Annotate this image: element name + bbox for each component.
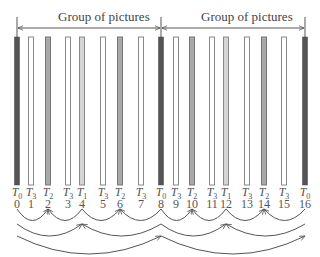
frame-number-label: 7 (138, 197, 144, 212)
frame-number-label: 14 (258, 197, 270, 212)
frame-number-label: 0 (14, 197, 20, 212)
frame-bar-0 (15, 37, 20, 185)
frame-number-label: 10 (186, 197, 198, 212)
frame-bar-9 (174, 37, 179, 185)
frame-bar-5 (101, 37, 106, 185)
frame-bar-1 (29, 37, 34, 185)
frame-number-label: 15 (278, 197, 290, 212)
prediction-arc-0-to-4 (17, 224, 82, 236)
frame-number-label: 1 (28, 197, 34, 212)
prediction-arc-8-to-16 (161, 236, 305, 254)
diagram-canvas (0, 0, 320, 257)
frame-bar-4 (80, 37, 85, 185)
frame-bar-3 (66, 37, 71, 185)
frame-bar-15 (282, 37, 287, 185)
frame-number-label: 12 (220, 197, 232, 212)
frame-number-label: 5 (100, 197, 106, 212)
frame-number-label: 16 (299, 197, 311, 212)
frame-bars (15, 37, 308, 185)
frame-bar-13 (245, 37, 250, 185)
frame-number-label: 11 (206, 197, 218, 212)
frame-bar-10 (190, 37, 195, 185)
frame-bar-14 (262, 37, 267, 185)
frame-bar-16 (303, 37, 308, 185)
frame-number-label: 2 (45, 197, 51, 212)
prediction-arc-16-to-12 (226, 224, 305, 236)
prediction-arc-8-to-4 (82, 224, 161, 236)
frame-number-label: 13 (241, 197, 253, 212)
gop-label-2: Group of pictures (201, 9, 293, 25)
frame-number-label: 9 (173, 197, 179, 212)
prediction-arcs (17, 209, 305, 254)
frame-bar-6 (118, 37, 123, 185)
frame-bar-8 (159, 37, 164, 185)
frame-bar-11 (210, 37, 215, 185)
frame-number-label: 3 (65, 197, 71, 212)
prediction-arc-0-to-8 (17, 236, 161, 254)
frame-bar-7 (139, 37, 144, 185)
frame-number-label: 8 (158, 197, 164, 212)
frame-number-label: 4 (79, 197, 85, 212)
frame-bar-12 (224, 37, 229, 185)
prediction-arc-8-to-12 (161, 224, 226, 236)
hierarchical-gop-diagram: Group of pictures Group of pictures T00T… (0, 0, 320, 257)
gop-label-1: Group of pictures (58, 9, 150, 25)
frame-bar-2 (46, 37, 51, 185)
frame-number-label: 6 (117, 197, 123, 212)
